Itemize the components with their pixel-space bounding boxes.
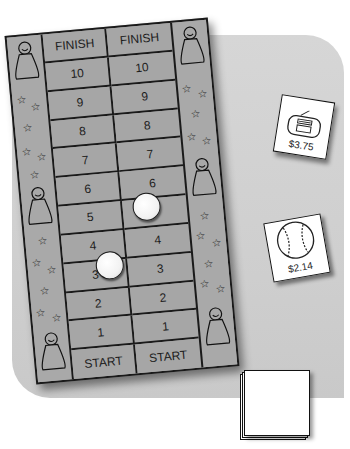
star-icon: ☆	[195, 231, 206, 243]
star-icon: ☆	[199, 210, 210, 222]
star-icon: ☆	[197, 88, 208, 100]
prize-price: $3.75	[288, 138, 314, 153]
girl-figure-icon	[186, 155, 220, 202]
star-icon: ☆	[21, 146, 32, 158]
star-icon: ☆	[211, 237, 222, 249]
star-icon: ☆	[31, 258, 42, 270]
star-icon: ☆	[46, 264, 57, 276]
prize-price: $2.14	[287, 260, 314, 275]
girl-figure-icon	[174, 24, 208, 71]
star-icon: ☆	[215, 283, 226, 295]
star-icon: ☆	[36, 151, 47, 163]
star-icon: ☆	[29, 169, 40, 181]
star-icon: ☆	[31, 101, 42, 113]
game-board: ☆ ☆ ☆ ☆ ☆ ☆ ☆ ☆ ☆ ☆ ☆ ☆ FINISH FINISH 10…	[5, 17, 240, 384]
star-icon: ☆	[182, 83, 193, 95]
space-start-left[interactable]: START	[71, 345, 137, 380]
star-icon: ☆	[35, 307, 46, 319]
deck-card-top[interactable]	[244, 370, 310, 436]
boombox-icon	[284, 107, 326, 141]
star-icon: ☆	[201, 136, 212, 148]
card-deck[interactable]	[240, 368, 308, 436]
girl-figure-icon	[9, 39, 43, 86]
star-icon: ☆	[22, 122, 33, 134]
star-icon: ☆	[16, 94, 27, 106]
girl-figure-icon	[22, 184, 56, 231]
prize-card-baseball[interactable]: $2.14	[263, 213, 331, 282]
baseball-icon	[271, 217, 319, 264]
girl-figure-icon	[36, 330, 70, 377]
prize-card-boombox[interactable]: $3.75	[273, 94, 335, 160]
space-start-right[interactable]: START	[135, 339, 201, 374]
star-icon: ☆	[190, 109, 201, 121]
star-icon: ☆	[186, 131, 197, 143]
star-icon: ☆	[37, 235, 48, 247]
star-icon: ☆	[204, 258, 215, 270]
star-icon: ☆	[199, 278, 210, 290]
girl-figure-icon	[200, 305, 234, 352]
star-icon: ☆	[51, 312, 62, 324]
star-icon: ☆	[39, 285, 50, 297]
